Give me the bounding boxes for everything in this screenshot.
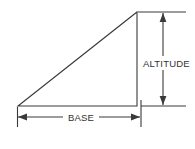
figure-container: ALTITUDE BASE (0, 0, 195, 149)
altitude-arrow-down-icon (160, 96, 167, 105)
altitude-arrow-up-icon (160, 13, 167, 22)
base-arrow-right-icon (131, 114, 140, 121)
triangle-diagram: ALTITUDE BASE (0, 0, 195, 149)
altitude-dimension: ALTITUDE (143, 13, 190, 105)
triangle-shape (18, 12, 137, 106)
base-dimension: BASE (18, 112, 140, 123)
base-arrow-left-icon (18, 114, 27, 121)
base-label: BASE (68, 112, 94, 123)
altitude-label: ALTITUDE (143, 58, 190, 69)
triangle-outline (18, 12, 137, 106)
